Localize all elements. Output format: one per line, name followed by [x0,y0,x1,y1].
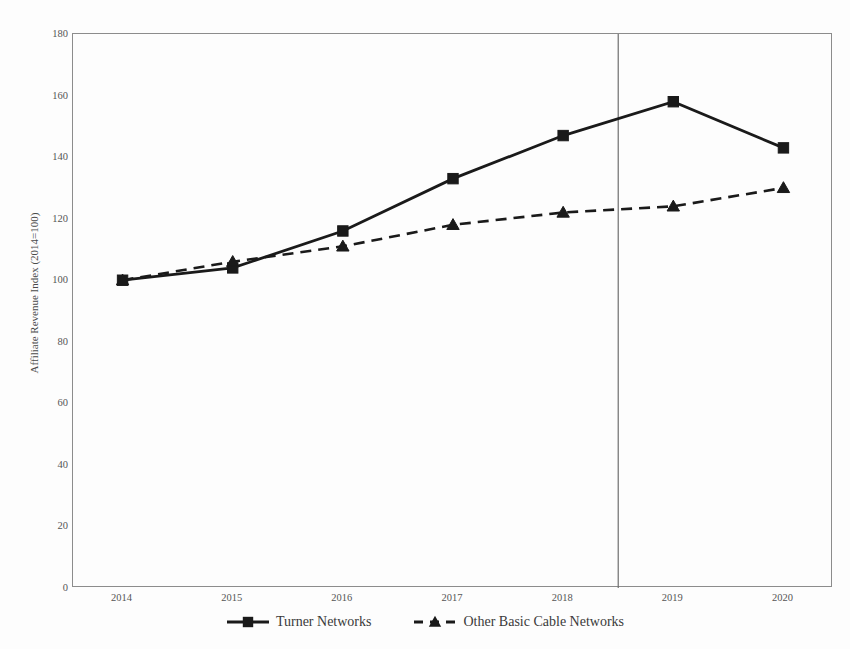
chart-figure: 020406080100120140160180 Affiliate Reven… [0,0,850,649]
legend-label: Other Basic Cable Networks [463,614,624,630]
x-tick-label: 2017 [412,592,492,603]
x-tick-label: 2020 [742,592,822,603]
series-line [123,188,784,280]
x-tick-label: 2014 [82,592,162,603]
series-1 [117,97,788,286]
data-point-marker [447,219,459,230]
x-tick-label: 2016 [302,592,382,603]
x-tick-label: 2018 [522,592,602,603]
y-tick-label: 180 [24,28,68,39]
data-point-marker [337,240,349,251]
y-tick-label: 140 [24,151,68,162]
x-tick-label: 2019 [632,592,712,603]
y-axis-title: Affiliate Revenue Index (2014=100) [28,173,40,413]
y-tick-label: 20 [24,520,68,531]
x-tick-label: 2015 [192,592,272,603]
chart-legend: Turner NetworksOther Basic Cable Network… [0,614,850,630]
chart-series-svg [73,34,833,588]
y-tick-label: 40 [24,458,68,469]
plot-area [72,33,832,587]
data-point-marker [558,130,568,140]
legend-triangle-marker-icon [413,615,457,629]
y-tick-label: 0 [24,582,68,593]
data-point-marker [338,226,348,236]
series-line [123,102,784,281]
data-point-marker [777,182,789,193]
data-point-marker [778,143,788,153]
legend-entry-1[interactable]: Turner Networks [226,614,372,630]
legend-label: Turner Networks [276,614,372,630]
y-axis: 020406080100120140160180 [16,33,68,587]
x-axis: 2014201520162017201820192020 [72,592,832,610]
data-point-marker [668,97,678,107]
data-point-marker [448,173,458,183]
y-tick-label: 160 [24,89,68,100]
legend-square-marker-icon [226,615,270,629]
legend-entry-2[interactable]: Other Basic Cable Networks [413,614,624,630]
